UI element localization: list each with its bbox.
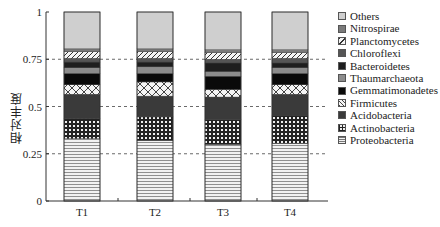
legend-label: Firmicutes bbox=[350, 97, 397, 109]
y-tick-label: 0.75 bbox=[23, 53, 43, 65]
legend-swatch bbox=[338, 37, 346, 45]
legend-swatch bbox=[338, 99, 346, 107]
segment-gemmatimonadetes bbox=[64, 73, 100, 84]
legend-swatch bbox=[338, 136, 346, 144]
segment-nitrospirae bbox=[205, 50, 241, 53]
legend: OthersNitrospiraePlanctomycetesChlorofle… bbox=[338, 10, 438, 146]
segment-others bbox=[272, 12, 308, 50]
legend-item-proteobacteria: Proteobacteria bbox=[338, 134, 438, 146]
legend-swatch bbox=[338, 87, 346, 95]
segment-planctomycetes bbox=[272, 53, 308, 59]
legend-label: Bacteroidetes bbox=[350, 60, 410, 72]
segment-actinobacteria bbox=[64, 119, 100, 139]
segment-actinobacteria bbox=[137, 117, 173, 141]
x-tick-label: T4 bbox=[284, 206, 297, 218]
legend-swatch bbox=[338, 111, 346, 119]
bar-T1: T1 bbox=[64, 12, 100, 218]
segment-chloroflexi bbox=[64, 58, 100, 62]
legend-label: Others bbox=[350, 10, 379, 22]
segment-thaumarchaeota bbox=[205, 72, 241, 77]
x-tick-label: T3 bbox=[217, 206, 230, 218]
segment-thaumarchaeota bbox=[137, 67, 173, 74]
legend-label: Chloroflexi bbox=[350, 47, 401, 59]
x-tick-label: T1 bbox=[76, 206, 88, 218]
segment-bacteroidetes bbox=[272, 63, 308, 68]
segment-bacteroidetes bbox=[137, 62, 173, 67]
bar-T3: T3 bbox=[205, 12, 241, 218]
bars: T1T2T3T4 bbox=[64, 12, 308, 218]
segment-firmicutes bbox=[137, 82, 173, 96]
segment-chloroflexi bbox=[272, 58, 308, 63]
bar-T2: T2 bbox=[137, 12, 173, 218]
legend-item-bacteroidetes: Bacteroidetes bbox=[338, 60, 438, 72]
y-tick-label: 0.5 bbox=[28, 101, 42, 113]
segment-acidobacteria bbox=[272, 94, 308, 116]
segment-proteobacteria bbox=[64, 139, 100, 201]
segment-actinobacteria bbox=[205, 120, 241, 145]
segment-acidobacteria bbox=[205, 97, 241, 120]
legend-swatch bbox=[338, 12, 346, 20]
legend-item-nitrospirae: Nitrospirae bbox=[338, 22, 438, 34]
segment-planctomycetes bbox=[137, 52, 173, 59]
x-tick-label: T2 bbox=[149, 206, 161, 218]
segment-proteobacteria bbox=[272, 143, 308, 201]
segment-others bbox=[205, 12, 241, 50]
segment-firmicutes bbox=[205, 89, 241, 97]
segment-thaumarchaeota bbox=[272, 68, 308, 74]
segment-chloroflexi bbox=[137, 58, 173, 62]
segment-planctomycetes bbox=[64, 52, 100, 59]
y-tick-label: 0 bbox=[37, 195, 43, 207]
segment-nitrospirae bbox=[137, 49, 173, 52]
legend-swatch bbox=[338, 49, 346, 57]
legend-label: Thaumarchaeota bbox=[350, 72, 423, 84]
segment-firmicutes bbox=[272, 85, 308, 94]
segment-gemmatimonadetes bbox=[137, 73, 173, 82]
segment-proteobacteria bbox=[205, 144, 241, 201]
segment-nitrospirae bbox=[272, 50, 308, 53]
legend-swatch bbox=[338, 124, 346, 132]
legend-swatch bbox=[338, 74, 346, 82]
segment-thaumarchaeota bbox=[64, 68, 100, 74]
segment-acidobacteria bbox=[137, 96, 173, 117]
y-tick-label: 1 bbox=[37, 6, 43, 18]
legend-label: Actinobacteria bbox=[350, 122, 415, 134]
legend-item-gemmatimonadetes: Gemmatimonadetes bbox=[338, 84, 438, 96]
legend-item-actinobacteria: Actinobacteria bbox=[338, 122, 438, 134]
legend-item-firmicutes: Firmicutes bbox=[338, 97, 438, 109]
segment-bacteroidetes bbox=[205, 63, 241, 72]
segment-acidobacteria bbox=[64, 94, 100, 119]
segment-nitrospirae bbox=[64, 49, 100, 52]
segment-firmicutes bbox=[64, 85, 100, 94]
legend-item-thaumarchaeota: Thaumarchaeota bbox=[338, 72, 438, 84]
legend-label: Planctomycetes bbox=[350, 35, 419, 47]
legend-item-others: Others bbox=[338, 10, 438, 22]
legend-label: Proteobacteria bbox=[350, 134, 414, 146]
segment-bacteroidetes bbox=[64, 62, 100, 68]
legend-item-chloroflexi: Chloroflexi bbox=[338, 47, 438, 59]
segment-proteobacteria bbox=[137, 141, 173, 201]
segment-planctomycetes bbox=[205, 53, 241, 60]
bar-T4: T4 bbox=[272, 12, 308, 218]
legend-item-planctomycetes: Planctomycetes bbox=[338, 35, 438, 47]
segment-chloroflexi bbox=[205, 59, 241, 63]
legend-item-acidobacteria: Acidobacteria bbox=[338, 109, 438, 121]
segment-gemmatimonadetes bbox=[205, 76, 241, 89]
legend-label: Gemmatimonadetes bbox=[350, 84, 438, 96]
segment-others bbox=[64, 12, 100, 49]
y-axis-label: 相对丰度 bbox=[8, 92, 25, 144]
legend-swatch bbox=[338, 25, 346, 33]
legend-label: Nitrospirae bbox=[350, 22, 399, 34]
segment-others bbox=[137, 12, 173, 49]
legend-label: Acidobacteria bbox=[350, 109, 412, 121]
legend-swatch bbox=[338, 62, 346, 70]
y-tick-label: 0.25 bbox=[23, 148, 43, 160]
segment-actinobacteria bbox=[272, 116, 308, 143]
segment-gemmatimonadetes bbox=[272, 73, 308, 84]
